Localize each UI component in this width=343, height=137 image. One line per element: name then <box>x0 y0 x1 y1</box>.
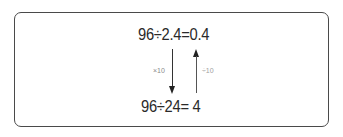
down-arrow-shaft <box>172 49 173 87</box>
divide-ten-label: ÷10 <box>202 67 214 75</box>
bottom-equation: 96÷24= 4 <box>141 99 200 115</box>
up-arrow-shaft <box>196 56 197 93</box>
down-arrow-icon <box>169 86 175 94</box>
multiply-ten-label: ×10 <box>153 67 165 75</box>
top-equation: 96÷2.4=0.4 <box>138 27 209 43</box>
